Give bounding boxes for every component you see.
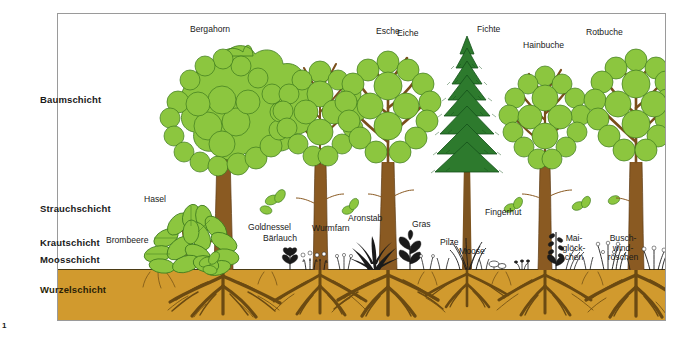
plant-label-moose: Moose: [459, 247, 485, 257]
broadleaf-crowns: [160, 45, 666, 176]
moose-moss: [516, 262, 528, 270]
plant-label-bergahorn: Bergahorn: [190, 25, 230, 35]
plant-label-hasel: Hasel: [144, 195, 166, 205]
layer-label-root: Wurzelschicht: [40, 284, 106, 295]
plant-label-gras: Gras: [412, 220, 431, 230]
forest-illustration: [58, 14, 666, 321]
diagram-frame: [57, 13, 666, 321]
root-system-group: [143, 270, 666, 317]
figure-number: 1: [2, 321, 6, 330]
goldnessel-plant: [282, 248, 297, 270]
plant-label-hainbuche: Hainbuche: [523, 41, 564, 51]
layer-label-herb: Krautschicht: [40, 237, 100, 248]
plant-label-eiche: Eiche: [397, 29, 419, 39]
plant-label-buschwindroeschen: Busch- wind- röschen: [600, 234, 646, 263]
plant-label-aronstab: Aronstab: [348, 214, 382, 224]
plant-label-baerlauch: Bärlauch: [263, 234, 297, 244]
plant-label-pilze: Pilze: [440, 238, 459, 248]
forest-layers-diagram: Baumschicht Strauchschicht Krautschicht …: [0, 0, 676, 341]
plant-label-brombeere: Brombeere: [106, 236, 149, 246]
aronstab-plant: [399, 230, 421, 270]
fichte-conifer: [435, 36, 499, 172]
plant-label-goldnessel: Goldnessel: [248, 223, 291, 233]
plant-label-maigloeckchen: Mai- glöck- chen: [557, 234, 591, 263]
pilze-mushrooms: [489, 261, 506, 270]
layer-label-shrub: Strauchschicht: [40, 203, 111, 214]
layer-label-tree: Baumschicht: [40, 94, 101, 105]
plant-label-fingerhut: Fingerhut: [485, 208, 521, 218]
plant-label-wurmfarn: Wurmfarn: [312, 224, 350, 234]
plant-label-rotbuche: Rotbuche: [586, 28, 623, 38]
plant-label-fichte: Fichte: [477, 25, 500, 35]
layer-label-moss: Moosschicht: [40, 254, 100, 265]
mid-band-sprigs: [259, 188, 621, 216]
